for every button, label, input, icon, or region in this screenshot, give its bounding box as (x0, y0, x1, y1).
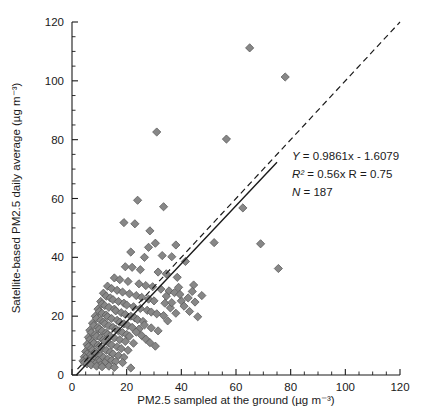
data-point (198, 291, 206, 299)
data-point (194, 313, 202, 321)
data-point (151, 239, 159, 247)
data-point (191, 298, 199, 306)
data-point (140, 253, 148, 261)
annotation-sample-size: N = 187 (292, 186, 333, 198)
data-point (124, 277, 132, 285)
data-point (128, 263, 136, 271)
data-point (210, 239, 218, 247)
major-ticks-x (72, 369, 400, 375)
y-tick-label: 0 (58, 369, 64, 381)
data-point (158, 251, 166, 259)
data-point (239, 204, 247, 212)
annotation-r-squared: R² = 0.56x R = 0.75 (292, 168, 392, 180)
data-point (135, 280, 143, 288)
data-point (120, 219, 128, 227)
data-points (79, 44, 289, 372)
data-point (127, 364, 135, 372)
data-point (159, 203, 167, 211)
annotation-equation: Y = 0.9861x - 1.6079 (292, 150, 399, 162)
annotation-block: Y = 0.9861x - 1.6079 R² = 0.56x R = 0.75… (292, 150, 399, 198)
data-point (172, 241, 180, 249)
data-point (168, 253, 176, 261)
x-axis-title: PM2.5 sampled at the ground (µg m⁻³) (137, 394, 335, 406)
data-point (154, 268, 162, 276)
y-tick-labels: 020406080100120 (45, 16, 64, 381)
one-to-one-line (77, 22, 400, 369)
regression-line (76, 162, 277, 375)
data-point (129, 339, 137, 347)
data-point (142, 281, 150, 289)
y-axis-title: Satellite-based PM2.5 daily average (µg … (10, 83, 22, 314)
data-point (131, 220, 139, 228)
data-point (246, 44, 254, 52)
chart-canvas: 020406080100120 020406080100120 PM2.5 sa… (0, 0, 428, 420)
data-point (134, 196, 142, 204)
data-point (257, 240, 265, 248)
x-tick-label: 80 (284, 381, 297, 393)
data-point (173, 273, 181, 281)
data-point (125, 290, 133, 298)
y-tick-label: 60 (51, 193, 64, 205)
data-point (281, 73, 289, 81)
data-point (190, 281, 198, 289)
data-point (222, 135, 230, 143)
major-ticks-y (72, 22, 78, 375)
y-tick-label: 120 (45, 16, 64, 28)
data-point (185, 307, 193, 315)
x-tick-label: 120 (390, 381, 409, 393)
scatter-plot-figure: 020406080100120 020406080100120 PM2.5 sa… (0, 0, 428, 420)
x-tick-label: 20 (120, 381, 133, 393)
x-tick-label: 60 (230, 381, 243, 393)
data-point (153, 128, 161, 136)
data-point (124, 346, 132, 354)
y-tick-label: 100 (45, 75, 64, 87)
data-point (172, 309, 180, 317)
y-tick-label: 80 (51, 134, 64, 146)
data-point (136, 266, 144, 274)
x-tick-labels: 020406080100120 (69, 381, 410, 393)
y-tick-label: 40 (51, 251, 64, 263)
data-point (127, 248, 135, 256)
data-point (136, 304, 144, 312)
data-point (188, 287, 196, 295)
x-tick-label: 40 (175, 381, 188, 393)
x-tick-label: 0 (69, 381, 75, 393)
x-tick-label: 100 (336, 381, 355, 393)
data-point (149, 283, 157, 291)
data-point (146, 227, 154, 235)
data-point (274, 264, 282, 272)
y-tick-label: 20 (51, 310, 64, 322)
data-point (144, 243, 152, 251)
